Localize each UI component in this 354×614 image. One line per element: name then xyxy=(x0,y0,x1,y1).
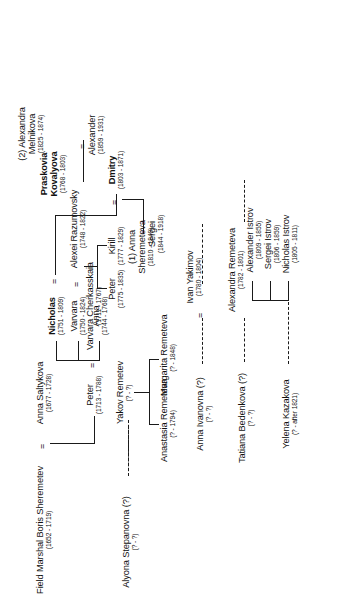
marriage-symbol-peter-varvara: = xyxy=(88,363,97,368)
person-alexander-istrov: Alexander Istrov (1809 - 1855) xyxy=(246,198,263,282)
dashed-link-yelena xyxy=(288,302,289,364)
connector-anastasia-stub xyxy=(149,424,159,425)
connector-boris-children-v xyxy=(50,443,95,444)
connector-peter1775-stub xyxy=(97,288,107,289)
person-peter-1713: Peter (1713 - 1788) xyxy=(86,372,103,418)
person-sergei-istrov: Sergei Istrov (1806 - 1859) xyxy=(264,206,281,282)
connector-istrov-bot xyxy=(288,281,289,301)
person-alexandra-melnikova: (2) Alexandra Melnikova (1825 - 1874) xyxy=(18,84,45,184)
connector-peter-offspring-mid xyxy=(78,341,79,361)
genealogy-chart-frame: Field Marshal Boris Sheremetev (1652 - 1… xyxy=(0,0,354,614)
connector-alexander-link xyxy=(83,140,84,182)
person-varvara-1750: Varvara (1750 - 1824) xyxy=(70,290,87,342)
connector-nicholas-dmitry-h xyxy=(116,194,117,216)
person-dates: (1751 - 1809) xyxy=(58,290,65,342)
person-dates: (1780 - 1804) xyxy=(196,240,203,314)
person-dates: (? - ?) xyxy=(206,366,213,462)
person-dates: (? - 1794) xyxy=(170,386,177,462)
person-dmitry: Dmitry (1803 - 1871) xyxy=(108,144,125,196)
connector-sergei-link xyxy=(143,199,144,234)
person-nicholas: Nicholas (1751 - 1809) xyxy=(48,290,65,342)
connector-istrov-mid xyxy=(270,281,271,301)
person-dates: (1825 - 1874) xyxy=(38,84,45,184)
person-yelena-kazakova: Yelena Kazakova (? - after 1821) xyxy=(282,366,299,462)
person-dates: (? - 1848) xyxy=(170,320,177,396)
person-dates: (1809 - 1855) xyxy=(256,198,263,282)
person-yakov-remetev: Yakov Remetev (? - ?) xyxy=(116,362,133,424)
connector-yakov-children-v xyxy=(134,392,150,393)
marriage-symbol-nicholas-praskovia: = xyxy=(50,279,59,284)
person-dates: (1748 - 1822) xyxy=(80,181,87,277)
person-dates: (1782 - 1801) xyxy=(238,220,245,320)
person-dates: (1750 - 1824) xyxy=(80,290,87,342)
person-dates: (1652 - 1719) xyxy=(46,454,53,606)
person-dates: (1859 - 1931) xyxy=(98,104,105,166)
person-dates: (? - ?) xyxy=(132,478,139,606)
person-dates: (? - after 1821) xyxy=(292,366,299,462)
connector-razumovsky-children-v xyxy=(84,266,98,267)
connector-nicholas-praskovia xyxy=(55,215,56,275)
person-alyona-stepanovna: Alyona Stepanovna (?) (? - ?) xyxy=(122,478,139,606)
connector-margarita-stub xyxy=(149,359,159,360)
connector-istrov-top xyxy=(252,281,253,301)
person-alexandra-remeteva: Alexandra Remeteva (1782 - 1801) xyxy=(228,220,245,320)
dashed-link-yakov xyxy=(128,426,129,476)
person-dates: (1806 - 1859) xyxy=(274,206,281,282)
person-dates: (1768 - 1803) xyxy=(60,134,67,214)
person-dates: (1844 - 1918) xyxy=(158,206,165,262)
connector-nicholas-dmitry-v xyxy=(55,215,117,216)
person-alexander: Alexander (1859 - 1931) xyxy=(88,104,105,166)
person-dates: (? - ?) xyxy=(248,362,255,474)
connector-peter-offspring-bot xyxy=(99,341,100,361)
marriage-symbol-anna-dmitry: = xyxy=(110,200,119,205)
marriage-symbol-varvara-alexei: = xyxy=(72,282,81,287)
person-tatiana-bedenkova: Tatiana Bedenkova (?) (? - ?) xyxy=(238,362,255,474)
connector-boris-children-h xyxy=(94,416,95,444)
person-anastasia-remeteva: Anastasia Remeteva (? - 1794) xyxy=(160,386,177,462)
person-dates: (1713 - 1788) xyxy=(96,372,103,418)
person-anna-saltykova: Anna Saltykova (1677 - 1728) xyxy=(36,348,53,438)
connector-razumovsky-children-h xyxy=(97,245,98,289)
person-dates: (? - ?) xyxy=(126,362,133,424)
genealogy-canvas: Field Marshal Boris Sheremetev (1652 - 1… xyxy=(0,0,354,614)
person-alexei-razumovsky: Alexei Razumovsky (1748 - 1822) xyxy=(70,181,87,277)
dashed-link-tatiana xyxy=(244,318,245,362)
person-dates: (1805 - 1811) xyxy=(292,206,299,282)
connector-kirill-stub xyxy=(97,245,107,246)
person-dates: (1803 - 1871) xyxy=(118,144,125,196)
person-sergei: Sergei (1844 - 1918) xyxy=(148,206,165,262)
person-ivan-yakimov: Ivan Yakimov (1780 - 1804) xyxy=(186,240,203,314)
connector-peter-offspring-top xyxy=(56,341,57,361)
person-anna-ivanovna: Anna Ivanovna (?) (? - ?) xyxy=(196,366,213,462)
person-kirill: Kirill (1777 - 1829) xyxy=(108,220,125,272)
dashed-link-anna-ivanovna xyxy=(202,318,203,364)
connector-yakov-children-h xyxy=(149,359,150,425)
person-boris-sheremetev: Field Marshal Boris Sheremetev (1652 - 1… xyxy=(36,454,53,606)
person-name-line2: Melnikova xyxy=(28,84,38,184)
connector-anna-dmitry-v xyxy=(122,199,144,200)
person-margarita-remeteva: Margarita Remeteva (? - 1848) xyxy=(160,320,177,396)
person-nicholas-istrov: Nicholas Istrov (1805 - 1811) xyxy=(282,206,299,282)
person-dates: (1677 - 1728) xyxy=(46,348,53,438)
person-dates: (1777 - 1829) xyxy=(118,220,125,272)
marriage-symbol-boris-anna: = xyxy=(38,444,47,449)
person-name-line2: Kovalyova xyxy=(50,134,60,214)
